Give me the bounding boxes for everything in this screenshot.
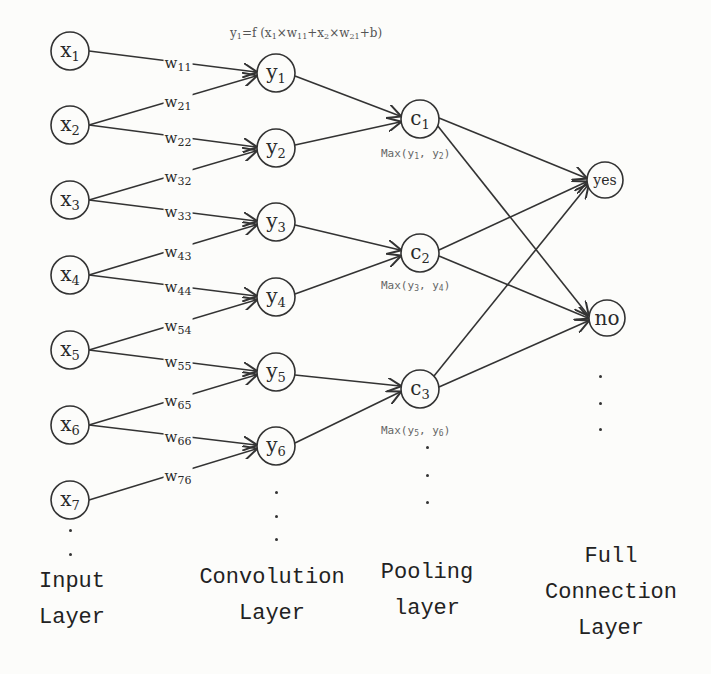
ellipsis-dot: [426, 501, 429, 504]
input-node-x4: x4: [60, 262, 80, 288]
weight-w32: w32: [164, 168, 193, 188]
weight-w54: w54: [164, 317, 193, 337]
convolution-formula: y1=f (x1×w11+x2×w21+b): [230, 26, 382, 41]
layer-label-input: Input Layer: [39, 564, 105, 636]
output-node-no: no: [595, 306, 620, 330]
layer-label-line: Layer: [545, 611, 677, 647]
pool-node-c1: c1: [410, 106, 429, 132]
layer-label-line: Pooling: [381, 555, 473, 591]
layer-label-line: Layer: [199, 596, 344, 632]
max-annotation-c1: Max(y1, y2): [381, 147, 450, 161]
conv-node-y1: y1: [266, 60, 286, 86]
max-annotation-c3: Max(y5, y6): [381, 424, 450, 438]
input-node-x5: x5: [60, 337, 80, 363]
weight-w65: w65: [164, 392, 193, 412]
weight-w66: w66: [164, 428, 193, 448]
ellipsis-dot: [275, 491, 278, 494]
conv-node-y4: y4: [266, 284, 286, 310]
ellipsis-dot: [599, 375, 602, 378]
conv-node-y5: y5: [266, 359, 286, 385]
weight-w22: w22: [164, 129, 193, 149]
edge-c3-no: [439, 321, 588, 387]
weight-w21: w21: [164, 93, 193, 113]
weight-w76: w76: [164, 467, 193, 487]
ellipsis-dot: [275, 515, 278, 518]
weight-w44: w44: [164, 278, 193, 298]
layer-label-line: Convolution: [199, 560, 344, 596]
layer-label-line: layer: [381, 591, 473, 627]
edge-y1-c1: [295, 76, 400, 116]
ellipsis-dot: [599, 428, 602, 431]
input-node-x6: x6: [60, 412, 80, 438]
input-node-x7: x7: [60, 487, 80, 513]
edge-c1-yes: [439, 118, 586, 178]
layer-label-convolution: Convolution Layer: [199, 560, 344, 632]
conv-node-y3: y3: [266, 209, 286, 235]
input-node-x3: x3: [60, 187, 80, 213]
layer-label-line: Full: [545, 539, 677, 575]
max-annotation-c2: Max(y3, y4): [381, 279, 450, 293]
ellipsis-dot: [426, 446, 429, 449]
ellipsis-dot: [426, 474, 429, 477]
layer-label-full-connection: Full Connection Layer: [545, 539, 677, 647]
layer-label-line: Layer: [39, 600, 105, 636]
cnn-diagram: y1=f (x1×w11+x2×w21+b) x1 x2 x3 x4 x5 x6…: [0, 0, 711, 674]
input-node-x1: x1: [60, 38, 80, 64]
layer-label-line: Connection: [545, 575, 677, 611]
input-node-x2: x2: [60, 112, 80, 138]
ellipsis-dot: [599, 402, 602, 405]
ellipsis-dot: [69, 529, 72, 532]
edge-y2-c1: [295, 122, 400, 145]
pool-node-c3: c3: [410, 376, 429, 402]
output-node-yes: yes: [593, 172, 616, 188]
weight-w33: w33: [164, 203, 193, 223]
edge-y3-c2: [295, 225, 400, 250]
conv-node-y6: y6: [266, 433, 286, 459]
ellipsis-dot: [275, 538, 278, 541]
layer-label-line: Input: [39, 564, 105, 600]
pool-node-c2: c2: [410, 240, 429, 266]
weight-w11: w11: [164, 54, 193, 74]
ellipsis-dot: [69, 553, 72, 556]
edge-c3-yes: [434, 185, 588, 376]
weight-w55: w55: [164, 353, 193, 373]
edge-y5-c3: [295, 375, 400, 386]
layer-label-pooling: Pooling layer: [381, 555, 473, 627]
conv-node-y2: y2: [266, 135, 286, 161]
weight-w43: w43: [164, 243, 193, 263]
